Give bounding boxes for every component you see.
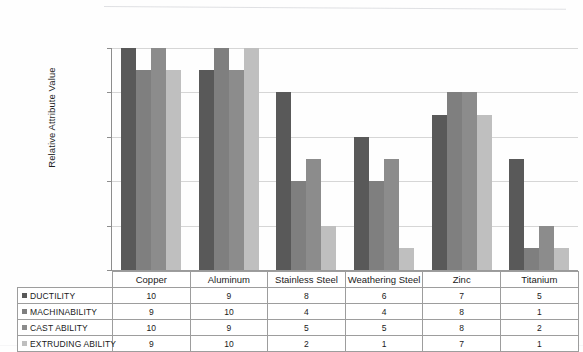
legend-swatch-icon	[22, 309, 27, 314]
bar-ductility-aluminum	[199, 70, 214, 270]
bar-group-weathering-steel	[345, 48, 423, 270]
bar-group-stainless-steel	[267, 48, 345, 270]
table-cell: 4	[345, 304, 423, 320]
bar-ductility-titanium	[509, 159, 524, 270]
bar-cast-ability-zinc	[462, 92, 477, 270]
table-row: CAST ABILITY1095582	[18, 320, 579, 336]
bar-extruding-ability-zinc	[477, 115, 492, 270]
table-column-header: Copper	[113, 272, 191, 288]
table-cell: 5	[345, 320, 423, 336]
bar-machinability-titanium	[524, 248, 539, 270]
bar-chart: Relative Attribute Value 0246810	[0, 0, 583, 272]
table-cell: 9	[113, 304, 191, 320]
bar-cast-ability-titanium	[539, 226, 554, 270]
bar-machinability-aluminum	[214, 48, 229, 270]
table-cell: 10	[190, 304, 268, 320]
bar-group-zinc	[423, 48, 501, 270]
bar-ductility-copper	[121, 48, 136, 270]
table-cell: 1	[345, 336, 423, 352]
bar-cast-ability-weathering-steel	[384, 159, 399, 270]
table-cell: 6	[345, 288, 423, 304]
bar-ductility-zinc	[432, 115, 447, 270]
plot-area: 0246810	[112, 48, 578, 270]
bar-group-titanium	[500, 48, 578, 270]
table-cell: 9	[113, 336, 191, 352]
bar-cast-ability-copper	[151, 48, 166, 270]
legend-swatch-icon	[22, 293, 27, 298]
table-row: DUCTILITY1098675	[18, 288, 579, 304]
bar-groups	[112, 48, 578, 270]
bar-group-aluminum	[190, 48, 268, 270]
table-cell: 1	[500, 336, 578, 352]
bar-ductility-stainless-steel	[276, 92, 291, 270]
table-cell: 4	[268, 304, 346, 320]
table-cell: 8	[423, 320, 501, 336]
bar-cast-ability-aluminum	[229, 70, 244, 270]
table-cell: 7	[423, 336, 501, 352]
legend-swatch-icon	[22, 325, 27, 330]
table-cell: 9	[190, 288, 268, 304]
table-row-label: MACHINABILITY	[18, 304, 113, 320]
table-cell: 10	[190, 336, 268, 352]
table-column-header: Weathering Steel	[345, 272, 423, 288]
table-row: EXTRUDING ABILITY9102171	[18, 336, 579, 352]
table-row-label: EXTRUDING ABILITY	[18, 336, 113, 352]
table-cell: 8	[423, 304, 501, 320]
table-cell: 2	[500, 320, 578, 336]
table-column-header: Titanium	[500, 272, 578, 288]
bar-machinability-weathering-steel	[369, 181, 384, 270]
bar-extruding-ability-stainless-steel	[321, 226, 336, 270]
table-cell: 1	[500, 304, 578, 320]
table-cell: 5	[268, 320, 346, 336]
table-column-header: Stainless Steel	[268, 272, 346, 288]
table-column-header: Aluminum	[190, 272, 268, 288]
table-cell: 9	[190, 320, 268, 336]
legend-swatch-icon	[22, 341, 27, 346]
bar-cast-ability-stainless-steel	[306, 159, 321, 270]
table-cell: 10	[113, 288, 191, 304]
table-corner-cell	[18, 272, 113, 288]
y-axis-title: Relative Attribute Value	[46, 28, 57, 208]
bar-machinability-zinc	[447, 92, 462, 270]
bar-group-copper	[112, 48, 190, 270]
bar-extruding-ability-aluminum	[244, 48, 259, 270]
table-column-header: Zinc	[423, 272, 501, 288]
bar-extruding-ability-copper	[166, 70, 181, 270]
bar-machinability-stainless-steel	[291, 181, 306, 270]
bar-extruding-ability-weathering-steel	[399, 248, 414, 270]
bar-extruding-ability-titanium	[554, 248, 569, 270]
table-cell: 10	[113, 320, 191, 336]
table-row: MACHINABILITY9104481	[18, 304, 579, 320]
bar-machinability-copper	[136, 70, 151, 270]
table-cell: 8	[268, 288, 346, 304]
bar-ductility-weathering-steel	[354, 137, 369, 270]
data-table: CopperAluminumStainless SteelWeathering …	[17, 271, 579, 352]
table-cell: 5	[500, 288, 578, 304]
table-cell: 2	[268, 336, 346, 352]
table-row-label: DUCTILITY	[18, 288, 113, 304]
table-cell: 7	[423, 288, 501, 304]
table-row-label: CAST ABILITY	[18, 320, 113, 336]
table-header-row: CopperAluminumStainless SteelWeathering …	[18, 272, 579, 288]
